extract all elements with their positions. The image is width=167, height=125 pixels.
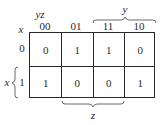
col-header-10: 10 xyxy=(126,21,152,32)
row-header-0: 0 xyxy=(17,43,27,54)
row-header-1: 1 xyxy=(17,77,27,88)
x-label: x xyxy=(2,77,12,88)
row-var-label: x xyxy=(16,24,26,35)
z-label: z xyxy=(88,110,98,121)
cell-r0-c1: 1 xyxy=(62,33,94,66)
cell-r0-c2: 1 xyxy=(93,33,125,66)
y-label: y xyxy=(120,4,130,15)
col-header-01: 01 xyxy=(63,21,89,32)
col-var-label: yz xyxy=(30,9,50,20)
col-header-11: 11 xyxy=(95,21,121,32)
cell-r1-c3: 1 xyxy=(125,66,157,99)
cell-r1-c0: 1 xyxy=(30,66,62,99)
cell-r0-c0: 0 xyxy=(30,33,62,66)
col-header-00: 00 xyxy=(32,21,58,32)
cell-r0-c3: 0 xyxy=(125,33,157,66)
z-brace xyxy=(62,101,124,107)
cell-r1-c1: 0 xyxy=(62,66,94,99)
kmap-grid: 0 1 1 0 1 0 0 1 xyxy=(29,32,155,98)
cell-r1-c2: 0 xyxy=(93,66,125,99)
